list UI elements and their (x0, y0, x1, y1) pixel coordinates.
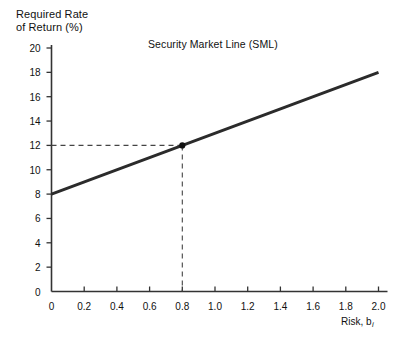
plot-area (0, 0, 410, 342)
sml-line (52, 72, 379, 194)
chart-container: Required Rateof Return (%) Security Mark… (0, 0, 410, 342)
data-point-marker[interactable] (179, 142, 185, 148)
